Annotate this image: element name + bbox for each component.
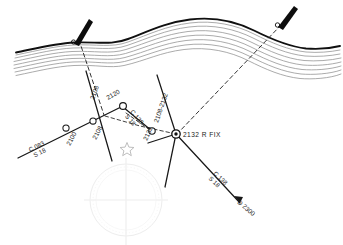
course-label-c083: C 083 S 18 [27,139,48,159]
radial-line-2108 [86,71,112,161]
dashed-track-right [178,25,281,133]
radial-line-fix-south [165,134,176,187]
chart-canvas: 2100 2108 2120 2132 2132 R FIX 2108 2108… [0,0,343,245]
waypoint-marker-2120 [120,103,127,110]
radial-label-2108-2132: 2108-2132 [152,92,169,124]
star-symbol [120,143,134,156]
route-leg-c138 [176,134,240,203]
compass-rose [84,158,168,245]
waypoint-marker-2108 [90,118,96,124]
waypoint-marker-2100 [63,125,69,131]
terrain-contour-lines [14,22,341,79]
waypoint-label-2120: 2120 [105,87,121,100]
waypoint-marker-2132-r-fix [172,130,180,138]
waypoint-label-2132-r-fix: 2132 R FIX [183,131,221,138]
ridge-crest-line [16,19,340,53]
aircraft-symbol-right [275,6,298,30]
waypoint-label-2100: 2100 [65,130,78,146]
navigation-chart-diagram: 2100 2108 2120 2132 2132 R FIX 2108 2108… [0,0,343,245]
endpoint-label-d2300: D 2300 [236,198,257,217]
